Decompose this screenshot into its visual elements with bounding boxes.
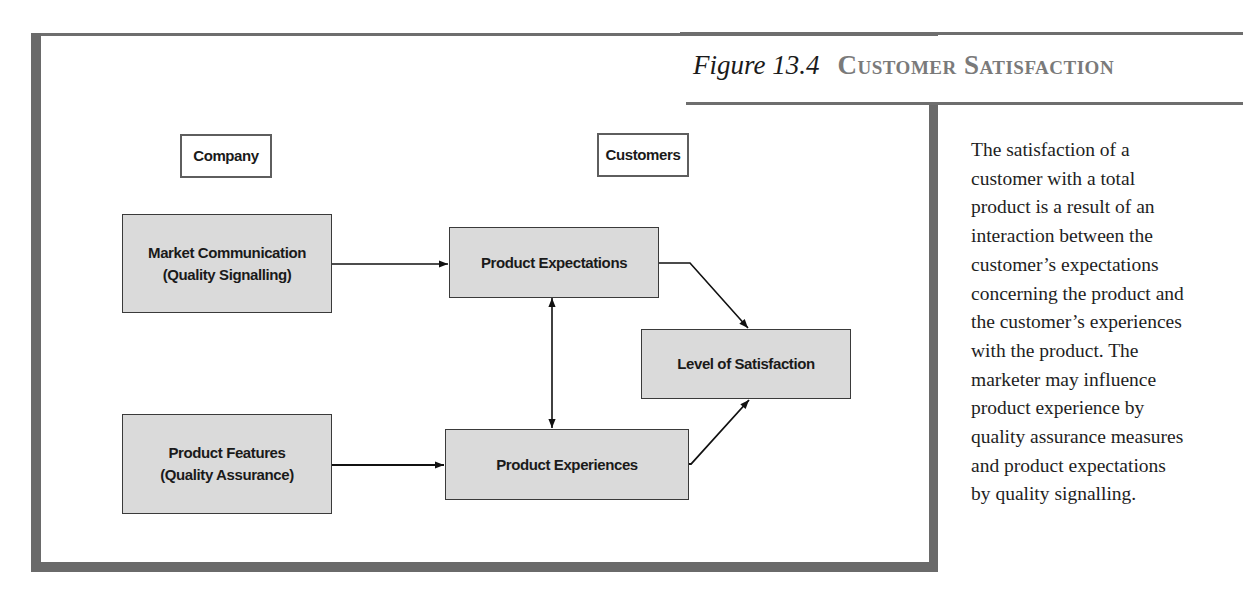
node-product-experiences: Product Experiences [445,429,689,500]
node-level-of-satisfaction: Level of Satisfaction [641,329,851,399]
node-market-communication: Market Communication (Quality Signalling… [122,214,332,313]
column-label-company: Company [180,134,272,178]
node-level-of-satisfaction-label: Level of Satisfaction [677,353,814,375]
arrow-experiences-to-satisfaction [688,400,749,464]
column-label-customers: Customers [597,133,689,177]
node-market-communication-line2: (Quality Signalling) [163,264,292,286]
node-market-communication-line1: Market Communication [148,242,306,264]
node-product-expectations-label: Product Expectations [481,252,627,274]
node-product-features: Product Features (Quality Assurance) [122,414,332,514]
column-label-customers-text: Customers [606,144,681,166]
node-product-features-line1: Product Features [169,442,286,464]
column-label-company-text: Company [193,145,259,167]
node-product-expectations: Product Expectations [449,227,659,298]
node-product-features-line2: (Quality Assurance) [160,464,294,486]
node-product-experiences-label: Product Experiences [496,454,638,476]
arrow-expectations-to-satisfaction [659,263,748,328]
